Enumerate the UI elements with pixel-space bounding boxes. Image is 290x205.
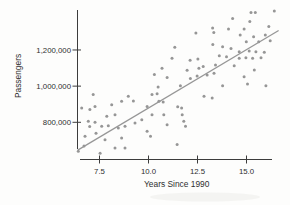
x-tick-label: 12.5 [190,167,206,176]
y-axis: 800,0001,000,0001,200,000 [36,10,81,149]
data-point [211,43,214,46]
data-point [87,120,90,123]
data-point [94,121,97,124]
data-point [166,123,169,126]
data-point [253,69,256,72]
data-point [273,9,276,12]
data-point [250,11,253,14]
data-point [269,39,272,42]
data-point [162,101,165,104]
data-point [227,28,230,31]
data-point [248,20,251,23]
x-tick-label: 7.5 [94,167,106,176]
data-point [221,84,224,87]
data-point [267,25,270,28]
data-point [225,55,228,58]
data-point [248,50,251,53]
data-point [186,69,189,72]
data-point [94,105,97,108]
data-point [151,113,154,116]
data-point [194,32,197,35]
data-point [151,93,154,96]
data-point [166,76,169,79]
data-point [114,113,117,116]
data-point [243,28,246,31]
y-tick-label: 1,200,000 [36,46,71,55]
data-point [173,46,176,49]
data-point [202,65,205,68]
data-point [120,100,123,103]
data-point [252,35,255,38]
data-point [88,125,91,128]
data-point [238,57,241,60]
data-point [239,34,242,37]
x-axis-title: Years Since 1990 [144,179,210,189]
data-point [221,45,224,48]
x-axis: 7.510.012.515.0 [80,156,272,177]
scatter-plot-canvas: 800,0001,000,0001,200,000 7.510.012.515.… [0,0,290,205]
data-point [251,57,254,60]
data-point [211,26,214,29]
data-point [88,108,91,111]
data-point [179,84,182,87]
data-point [212,31,215,34]
data-point [146,105,149,108]
data-point [244,56,247,59]
data-point [254,11,257,14]
data-point [124,147,127,150]
data-point [105,115,108,118]
data-point [260,56,263,59]
data-point [132,100,135,103]
x-tick-label: 10.0 [141,167,157,176]
data-point [149,135,152,138]
data-point [243,75,246,78]
data-point [114,147,117,150]
y-axis-ticks: 800,0001,000,0001,200,000 [36,46,81,127]
data-point [189,77,192,80]
data-point [107,124,110,127]
data-point [100,125,103,128]
data-point [264,34,267,37]
data-point [134,122,137,125]
data-point [189,59,192,62]
data-point [213,72,216,75]
data-point [203,95,206,98]
trend-line [78,30,279,150]
data-point [246,83,249,86]
data-point [180,107,183,110]
data-point [171,57,174,60]
data-point [99,152,102,155]
data-point [181,113,184,116]
data-point [196,75,199,78]
data-point [184,125,187,128]
data-point [211,97,214,100]
data-point [231,17,234,20]
data-point [218,54,221,57]
data-point [156,92,159,95]
data-point [196,58,199,61]
y-axis-title: Passengers [13,54,23,98]
data-point [263,51,266,54]
data-point [176,105,179,108]
data-point [176,143,179,146]
data-point [84,135,87,138]
data-point [264,84,267,87]
data-point [80,107,83,110]
data-point [92,93,95,96]
y-tick-label: 800,000 [43,118,72,127]
data-point [124,125,127,128]
data-point [161,67,164,70]
data-point [95,132,98,135]
data-point [120,137,123,140]
scatter-plot-figure: 800,0001,000,0001,200,000 7.510.012.515.… [0,0,290,205]
data-point [146,130,149,133]
data-point [162,113,165,116]
data-point [104,138,107,141]
data-point [230,47,233,50]
data-point [140,118,143,121]
x-axis-ticks: 7.510.012.515.0 [94,156,255,177]
data-point [127,95,130,98]
data-point [157,86,160,89]
data-point [153,73,156,76]
data-point [197,67,200,70]
